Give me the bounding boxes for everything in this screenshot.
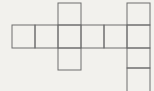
diagram-canvas — [0, 0, 154, 91]
net-square — [12, 25, 35, 48]
net-square — [127, 25, 150, 48]
net-square — [81, 25, 104, 48]
net-square — [127, 48, 150, 68]
net-square — [58, 25, 81, 48]
net-square — [35, 25, 58, 48]
net-square — [104, 25, 127, 48]
net-square — [127, 68, 150, 91]
net-square — [58, 3, 81, 25]
net-diagram-svg — [0, 0, 154, 91]
net-square — [127, 3, 150, 25]
net-square — [58, 48, 81, 70]
